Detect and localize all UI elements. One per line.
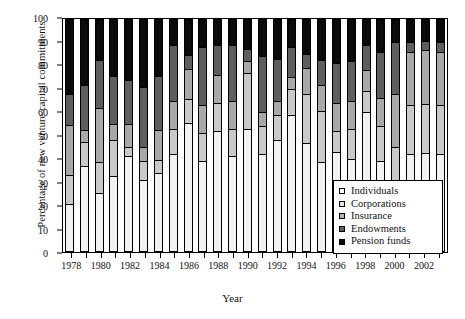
bar-segment-corporations [243, 49, 252, 61]
bar-segment-endowments [406, 105, 415, 154]
x-axis-tick-mark [321, 253, 322, 258]
bar-1989 [228, 19, 237, 252]
bar-segment-endowments [362, 91, 371, 112]
bar-segment-corporations [436, 42, 445, 51]
bar-segment-individuals [317, 19, 326, 60]
bar-segment-corporations [421, 41, 430, 50]
x-axis-tick-mark [86, 253, 87, 258]
bar-segment-insurance [436, 52, 445, 106]
bar-segment-endowments [228, 129, 237, 157]
y-axis-ticks: 0102030405060708090100 [0, 0, 62, 271]
bar-segment-insurance [80, 130, 89, 143]
bar-segment-individuals [332, 19, 341, 63]
bar-segment-individuals [391, 19, 400, 42]
bar-segment-corporations [198, 47, 207, 105]
bar-1995 [317, 19, 326, 252]
bar-segment-individuals [302, 19, 311, 54]
bar-segment-insurance [213, 75, 222, 103]
bar-segment-corporations [154, 76, 163, 130]
legend-item-individuals: Individuals [339, 185, 436, 198]
bar-segment-corporations [95, 60, 104, 108]
bar-segment-pension-funds [184, 123, 193, 252]
bar-segment-insurance [243, 61, 252, 73]
y-axis-tick-label: 70 [8, 83, 48, 94]
bar-segment-corporations [376, 52, 385, 99]
legend-item-corporations: Corporations [339, 198, 436, 211]
bar-segment-insurance [184, 69, 193, 99]
bar-1982 [124, 19, 133, 252]
bar-segment-insurance [95, 108, 104, 163]
x-axis-tick-label: 1998 [355, 260, 375, 271]
x-axis-title: Year [0, 292, 465, 304]
bar-1981 [109, 19, 118, 252]
x-axis-tick-mark [204, 253, 205, 258]
bar-segment-individuals [124, 19, 133, 80]
bar-segment-corporations [139, 87, 148, 148]
bar-segment-endowments [198, 133, 207, 161]
bar-segment-individuals [184, 19, 193, 55]
bar-segment-individuals [65, 19, 74, 94]
bar-segment-pension-funds [213, 131, 222, 252]
bar-segment-corporations [287, 47, 296, 77]
bar-segment-individuals [406, 19, 415, 42]
bar-segment-insurance [302, 68, 311, 94]
bar-segment-pension-funds [139, 180, 148, 252]
bar-1990 [243, 19, 252, 252]
bar-1991 [258, 19, 267, 252]
bar-segment-insurance [65, 125, 74, 175]
bar-segment-insurance [198, 105, 207, 133]
bar-segment-individuals [213, 19, 222, 45]
bar-1993 [287, 19, 296, 252]
bar-segment-insurance [273, 101, 282, 115]
x-axis-tick-label: 1986 [179, 260, 199, 271]
bar-segment-corporations [228, 45, 237, 101]
bar-segment-insurance [287, 77, 296, 89]
bar-segment-endowments [302, 94, 311, 143]
bar-segment-insurance [347, 101, 356, 129]
bar-segment-corporations [347, 61, 356, 101]
bar-segment-corporations [391, 42, 400, 93]
bar-1985 [169, 19, 178, 252]
bar-segment-corporations [124, 80, 133, 124]
bar-1986 [184, 19, 193, 252]
bar-segment-endowments [65, 175, 74, 204]
legend-label: Corporations [351, 198, 406, 211]
bar-segment-individuals [376, 19, 385, 52]
bar-segment-endowments [317, 111, 326, 162]
x-axis-tick-label: 1990 [238, 260, 258, 271]
bar-segment-corporations [302, 54, 311, 68]
bar-1992 [273, 19, 282, 252]
bar-segment-individuals [198, 19, 207, 47]
bar-segment-corporations [213, 45, 222, 75]
x-axis-tick-mark [174, 253, 175, 258]
bar-segment-individuals [436, 19, 445, 42]
bar-segment-corporations [184, 55, 193, 69]
bar-segment-pension-funds [287, 115, 296, 252]
bar-segment-insurance [421, 50, 430, 104]
bar-segment-insurance [124, 124, 133, 147]
bar-1978 [65, 19, 74, 252]
legend-item-endowments: Endowments [339, 223, 436, 236]
bar-segment-individuals [362, 19, 371, 45]
bar-segment-corporations [169, 45, 178, 101]
bar-segment-endowments [436, 105, 445, 154]
bar-segment-endowments [376, 126, 385, 161]
legend-swatch-icon [339, 201, 345, 207]
bar-1987 [198, 19, 207, 252]
bar-segment-insurance [406, 52, 415, 106]
bar-segment-endowments [154, 160, 163, 173]
bar-segment-pension-funds [169, 154, 178, 252]
bar-segment-individuals [258, 19, 267, 56]
bar-segment-endowments [169, 129, 178, 155]
x-axis-tick-label: 1980 [91, 260, 111, 271]
y-axis-tick-label: 20 [8, 201, 48, 212]
bar-segment-individuals [347, 19, 356, 61]
x-axis-tick-label: 1988 [208, 260, 228, 271]
bar-segment-individuals [109, 19, 118, 76]
y-axis-tick-label: 80 [8, 60, 48, 71]
bar-segment-endowments [421, 104, 430, 153]
bar-segment-individuals [80, 19, 89, 85]
bar-segment-corporations [317, 60, 326, 86]
x-axis-tick-mark [277, 253, 278, 258]
legend-label: Insurance [351, 210, 392, 223]
